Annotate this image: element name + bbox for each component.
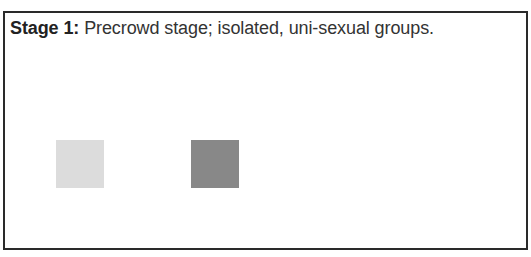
stage-label: Stage 1:	[10, 18, 79, 38]
stage-caption: Stage 1: Precrowd stage; isolated, uni-s…	[10, 18, 434, 39]
stage-description: Precrowd stage; isolated, uni-sexual gro…	[79, 18, 434, 38]
stage-frame	[3, 11, 528, 250]
light-group-square	[56, 140, 104, 188]
dark-group-square	[191, 140, 239, 188]
